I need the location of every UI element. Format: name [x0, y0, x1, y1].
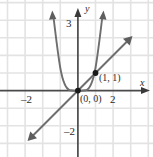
- point-label-origin: (0, 0): [80, 94, 102, 104]
- point-label-one-one: (1, 1): [99, 73, 121, 83]
- y-axis: [74, 8, 81, 157]
- x-tick-label-2: 2: [110, 94, 116, 105]
- y-axis-label: y: [85, 4, 89, 14]
- point-one-one-marker: [93, 70, 99, 76]
- grid-lines: [0, 0, 153, 157]
- x-tick-label-neg2: –2: [21, 94, 32, 105]
- graph-figure: y x 3 –2 –2 2 (0, 0) (1, 1): [0, 0, 153, 157]
- x-axis-label: x: [140, 78, 144, 88]
- y-tick-label-neg2: –2: [64, 126, 75, 137]
- y-tick-label-3: 3: [66, 18, 72, 29]
- coordinate-plane: [0, 0, 153, 157]
